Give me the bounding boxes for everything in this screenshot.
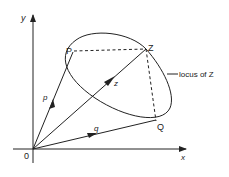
locus-annotation: locus of Z <box>179 70 214 79</box>
vector-z-label: z <box>113 79 118 88</box>
point-q-label: Q <box>157 122 164 132</box>
vector-p-arrow-icon <box>49 99 55 109</box>
x-axis-label: x <box>180 153 186 162</box>
vector-p-label: p <box>42 93 48 102</box>
dashed-p-z <box>74 49 146 51</box>
locus-ellipse <box>65 33 171 118</box>
vector-q-arrow-icon <box>87 133 97 138</box>
vector-locus-diagram: y x 0 P Z Q p z q locus of Z <box>0 0 229 177</box>
point-p-label: P <box>66 46 72 56</box>
axes <box>13 15 186 163</box>
origin-label: 0 <box>24 151 29 161</box>
point-z-label: Z <box>148 43 154 53</box>
y-axis-label: y <box>20 13 26 23</box>
vector-q-label: q <box>94 124 99 133</box>
